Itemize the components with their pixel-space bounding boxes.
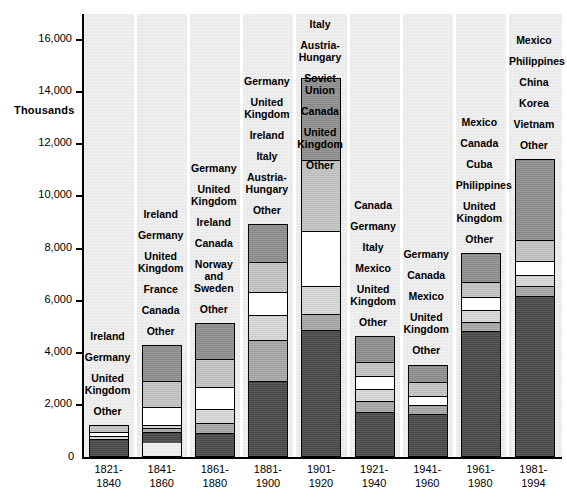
bar-segment-ireland[interactable] [196, 388, 234, 410]
legend-label: United Kingdom [296, 126, 343, 150]
legend-label: Canada [137, 304, 184, 316]
bar-column-1941-1960[interactable]: GermanyCanadaMexicoUnited KingdomOther [403, 14, 456, 457]
x-axis-label-1941-1960: 1941- 1960 [401, 462, 454, 490]
immigration-stacked-bar-chart: Thousands 0 2,0004,0006,0008,00010,00012… [0, 0, 567, 499]
bar-segment-italy[interactable] [356, 377, 394, 390]
legend-label: Philippines [456, 179, 503, 191]
bar-segment-cuba[interactable] [462, 298, 500, 312]
tick-mark [76, 352, 84, 354]
legend-label: United Kingdom [456, 200, 503, 224]
bar-segment-canada[interactable] [302, 287, 340, 316]
stacked-bar[interactable] [142, 345, 182, 457]
legend-label: United Kingdom [350, 283, 397, 307]
column-legend-labels: ItalyAustria- HungarySoviet UnionCanadaU… [296, 18, 343, 171]
bar-segment-united-kingdom[interactable] [196, 360, 234, 388]
y-tick-label: 8,000 [44, 241, 72, 253]
legend-label: Canada [190, 237, 237, 249]
y-tick-label: 6,000 [44, 293, 72, 305]
bar-segment-other[interactable] [143, 433, 181, 443]
bar-segment-other[interactable] [196, 434, 234, 456]
bar-column-1841-1860[interactable]: IrelandGermanyUnited KingdomFranceCanada… [137, 14, 190, 457]
bar-segment-other[interactable] [302, 331, 340, 456]
bar-column-1821-1840[interactable]: IrelandGermanyUnited KingdomOther [84, 14, 137, 457]
bar-segment-canada[interactable] [462, 283, 500, 298]
bar-segment-united-kingdom[interactable] [409, 406, 447, 415]
bar-segment-italy[interactable] [249, 316, 287, 341]
bar-segment-philippines[interactable] [516, 241, 554, 262]
bar-segment-other[interactable] [90, 440, 128, 456]
bar-segment-united-kingdom[interactable] [462, 323, 500, 332]
bar-segment-mexico[interactable] [409, 397, 447, 406]
bar-segment-ireland[interactable] [90, 426, 128, 433]
bar-segment-china[interactable] [516, 262, 554, 276]
bar-column-1881-1900[interactable]: GermanyUnited KingdomIrelandItalyAustria… [243, 14, 296, 457]
bar-column-1961-1980[interactable]: MexicoCanadaCubaPhilippinesUnited Kingdo… [456, 14, 509, 457]
bar-segment-other[interactable] [409, 415, 447, 456]
bar-segment-united-kingdom[interactable] [356, 402, 394, 413]
legend-label: Philippines [509, 55, 559, 67]
bar-column-1921-1940[interactable]: CanadaGermanyItalyMexicoUnited KingdomOt… [350, 14, 403, 457]
bar-segment-korea[interactable] [516, 276, 554, 287]
bar-segment-soviet-union[interactable] [302, 232, 340, 287]
bar-segment-ireland[interactable] [249, 293, 287, 316]
legend-label: Canada [403, 269, 450, 281]
column-legend-labels: IrelandGermanyUnited KingdomOther [84, 330, 131, 417]
legend-label: Ireland [190, 216, 237, 228]
bar-segment-germany[interactable] [196, 324, 234, 360]
bar-segment-other[interactable] [356, 413, 394, 456]
bar-column-1981-1994[interactable]: MexicoPhilippinesChinaKoreaVietnamOther [509, 14, 562, 457]
x-axis-label-1821-1840: 1821- 1840 [82, 462, 135, 490]
stacked-bar[interactable] [89, 425, 129, 457]
plot-area: 2,0004,0006,0008,00010,00012,00014,00016… [82, 14, 562, 459]
bar-segment-germany[interactable] [356, 363, 394, 377]
bar-segment-germany[interactable] [409, 366, 447, 384]
bar-segment-vietnam[interactable] [516, 287, 554, 297]
legend-label: Cuba [456, 158, 503, 170]
bar-column-1861-1880[interactable]: GermanyUnited KingdomIrelandCanadaNorway… [190, 14, 243, 457]
legend-label: Norway and Sweden [190, 258, 237, 294]
bar-segment-mexico[interactable] [462, 254, 500, 282]
legend-label: Other [137, 325, 184, 337]
column-legend-labels: IrelandGermanyUnited KingdomFranceCanada… [137, 208, 184, 337]
x-axis-label-1901-1920: 1901- 1920 [294, 462, 347, 490]
bar-segment-other[interactable] [516, 297, 554, 456]
bar-segment-other[interactable] [462, 332, 500, 456]
stacked-bar[interactable] [248, 224, 288, 457]
tick-mark [76, 91, 84, 93]
bar-segment-ireland[interactable] [143, 346, 181, 383]
bar-segment-united-kingdom[interactable] [143, 408, 181, 426]
bar-segment-mexico[interactable] [516, 160, 554, 241]
bar-column-1901-1920[interactable]: ItalyAustria- HungarySoviet UnionCanadaU… [296, 14, 349, 457]
bar-segment-canada[interactable] [196, 410, 234, 424]
bar-segment-other[interactable] [249, 382, 287, 456]
y-tick-label: 4,000 [44, 345, 72, 357]
stacked-bar[interactable] [461, 253, 501, 457]
bar-segment-united-kingdom[interactable] [302, 315, 340, 331]
bar-segment-germany[interactable] [249, 225, 287, 262]
tick-mark [76, 39, 84, 41]
legend-label: Other [456, 233, 503, 245]
legend-label: Germany [190, 162, 237, 174]
y-tick-label: 12,000 [38, 136, 72, 148]
legend-label: Mexico [350, 262, 397, 274]
bar-segment-austria-hungary[interactable] [302, 161, 340, 232]
bar-segment-germany[interactable] [143, 382, 181, 408]
tick-mark [76, 195, 84, 197]
legend-label: Soviet Union [296, 72, 343, 96]
bar-segment-canada[interactable] [356, 337, 394, 363]
stacked-bar[interactable] [355, 336, 395, 457]
legend-label: Other [403, 344, 450, 356]
bar-segment-mexico[interactable] [356, 390, 394, 402]
bar-segment-canada[interactable] [409, 383, 447, 397]
bar-segment-norway-and-sweden[interactable] [196, 424, 234, 434]
legend-label: Austria- Hungary [296, 39, 343, 63]
stacked-bar[interactable] [408, 365, 448, 458]
stacked-bar[interactable] [195, 323, 235, 457]
tick-mark [76, 404, 84, 406]
stacked-bar[interactable] [515, 159, 555, 457]
column-legend-labels: MexicoPhilippinesChinaKoreaVietnamOther [509, 34, 559, 151]
bar-segment-austria-hungary[interactable] [249, 341, 287, 382]
bar-segment-united-kingdom[interactable] [249, 263, 287, 293]
column-legend-labels: MexicoCanadaCubaPhilippinesUnited Kingdo… [456, 116, 503, 245]
bar-segment-philippines[interactable] [462, 311, 500, 323]
